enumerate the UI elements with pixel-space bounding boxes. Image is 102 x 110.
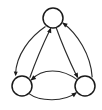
graph-canvas (0, 0, 102, 110)
node-circle-bottom-left (12, 76, 32, 96)
graph-node-bottom-right[interactable] (75, 76, 95, 96)
graph-node-top[interactable] (43, 8, 63, 28)
graph-node-bottom-left[interactable] (12, 76, 32, 96)
node-circle-bottom-right (75, 76, 95, 96)
node-circle-top (43, 8, 63, 28)
directed-graph-figure (0, 0, 102, 110)
